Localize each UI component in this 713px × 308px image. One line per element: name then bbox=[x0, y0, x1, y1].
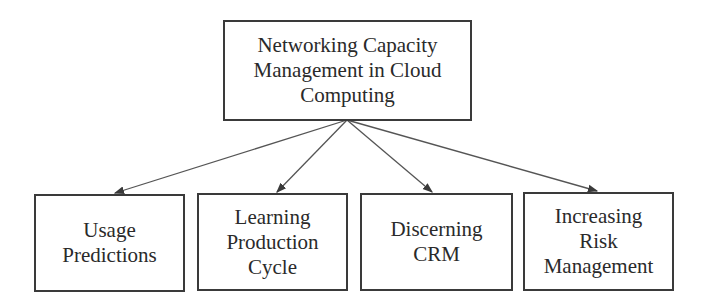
node-usage-predictions: Usage Predictions bbox=[34, 194, 185, 292]
root-node-label: Networking Capacity Management in Cloud … bbox=[254, 33, 442, 108]
node-label: Learning Production Cycle bbox=[226, 205, 318, 280]
arrow-to-discerning-crm bbox=[347, 120, 432, 192]
node-label: Increasing Risk Management bbox=[544, 204, 654, 279]
arrow-to-increasing-risk-management bbox=[347, 120, 597, 191]
root-node: Networking Capacity Management in Cloud … bbox=[223, 20, 472, 121]
node-discerning-crm: Discerning CRM bbox=[360, 193, 513, 291]
node-learning-production-cycle: Learning Production Cycle bbox=[197, 193, 348, 291]
node-label: Usage Predictions bbox=[62, 218, 157, 268]
node-label: Discerning CRM bbox=[390, 217, 482, 267]
node-increasing-risk-management: Increasing Risk Management bbox=[523, 192, 674, 291]
